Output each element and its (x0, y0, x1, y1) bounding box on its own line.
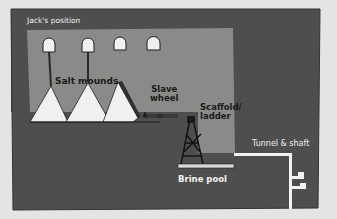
ceiling-opening-2 (82, 38, 94, 52)
tunnel-shaft-label: Tunnel & shaft (252, 140, 309, 148)
tunnel (234, 153, 291, 156)
slave-wheel-label-line2: wheel (150, 94, 178, 103)
jacks-position-label: Jack's position (27, 17, 80, 25)
shaft (289, 153, 292, 209)
brine-pool-label: Brine pool (178, 175, 227, 184)
diagram-graphic (0, 0, 337, 219)
salt-mine-diagram: Jack's position Salt mounds Slave wheel … (0, 0, 337, 219)
ceiling-opening-3 (114, 37, 126, 50)
slave-wheel-label: Slave wheel (150, 85, 178, 103)
salt-mounds-label: Salt mounds (55, 77, 118, 86)
scaffold-label-line2: ladder (200, 112, 242, 121)
scaffold-ladder-label: Scaffold/ ladder (200, 103, 242, 121)
brine-pool (178, 164, 234, 168)
ceiling-opening-4 (147, 37, 160, 50)
ceiling-opening-1 (43, 38, 55, 52)
